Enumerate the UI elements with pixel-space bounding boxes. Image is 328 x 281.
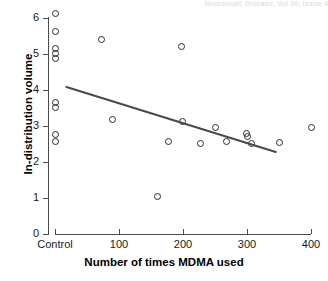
- data-point: [52, 28, 59, 35]
- y-axis-tick: [43, 162, 48, 163]
- scatter-plot-figure: Neurologic Disease, Vol 30, Issue 4 In-d…: [0, 0, 328, 281]
- y-axis-tick: [43, 18, 48, 19]
- y-axis-tick-label: 6: [22, 12, 39, 23]
- x-axis-tick-label: 200: [174, 238, 192, 250]
- data-point: [197, 140, 204, 147]
- x-axis-title: Number of times MDMA used: [0, 256, 328, 269]
- data-point: [52, 55, 59, 62]
- y-axis-tick-label: 2: [22, 156, 39, 167]
- x-axis-tick: [311, 229, 312, 234]
- x-axis-tick-label: 300: [238, 238, 256, 250]
- y-axis-tick: [43, 234, 48, 235]
- data-point: [154, 193, 161, 200]
- cut-off-header-text: Neurologic Disease, Vol 30, Issue 4: [160, 0, 328, 7]
- y-axis-tick-label: 4: [22, 84, 39, 95]
- data-point: [52, 138, 59, 145]
- data-point: [248, 140, 255, 147]
- data-point: [98, 36, 105, 43]
- data-point: [212, 124, 219, 131]
- x-axis-tick-label: 100: [110, 238, 128, 250]
- x-axis-tick: [119, 229, 120, 234]
- x-axis-tick: [55, 229, 56, 234]
- y-axis-tick: [43, 90, 48, 91]
- x-axis-tick-label: Control: [37, 238, 72, 250]
- data-point: [109, 116, 116, 123]
- y-axis-tick-label: 1: [22, 192, 39, 203]
- x-axis-tick-label: 400: [302, 238, 320, 250]
- data-point: [179, 118, 186, 125]
- x-axis-tick: [247, 229, 248, 234]
- y-axis-tick: [43, 198, 48, 199]
- data-point: [276, 139, 283, 146]
- x-axis-tick: [183, 229, 184, 234]
- y-axis-tick-label: 3: [22, 120, 39, 131]
- data-point: [52, 10, 59, 17]
- data-point: [52, 104, 59, 111]
- y-axis-tick-label: 5: [22, 48, 39, 59]
- data-point: [165, 138, 172, 145]
- data-point: [244, 133, 251, 140]
- data-point: [223, 138, 230, 145]
- y-axis-line: [48, 17, 49, 235]
- data-point: [178, 43, 185, 50]
- x-axis-line: [55, 234, 311, 235]
- y-axis-tick: [43, 54, 48, 55]
- data-point: [308, 124, 315, 131]
- y-axis-tick: [43, 126, 48, 127]
